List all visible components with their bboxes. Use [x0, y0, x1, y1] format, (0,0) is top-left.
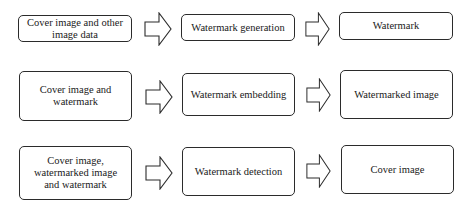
row1-output-box: Watermark	[339, 12, 453, 40]
row3-process-label: Watermark detection	[195, 166, 283, 178]
row3-process-box: Watermark detection	[182, 147, 295, 196]
row1-process-box: Watermark generation	[181, 14, 295, 41]
row2-arrow-right-icon-1	[145, 80, 173, 114]
row3-input-label: Cover image, watermarked image and water…	[26, 155, 126, 191]
row2-output-box: Watermarked image	[340, 70, 453, 119]
row3-output-box: Cover image	[341, 145, 454, 194]
row1-input-label: Cover image and other image data	[23, 17, 127, 41]
row2-input-label: Cover image and watermark	[36, 84, 116, 108]
row1-arrow-right-icon-1	[144, 12, 172, 46]
row1-input-box: Cover image and other image data	[18, 15, 132, 42]
row1-process-label: Watermark generation	[191, 22, 284, 34]
row3-output-label: Cover image	[371, 164, 425, 176]
row2-process-box: Watermark embedding	[182, 73, 295, 116]
row2-output-label: Watermarked image	[354, 89, 439, 101]
row2-process-label: Watermark embedding	[191, 89, 287, 101]
row2-arrow-right-icon-2	[306, 78, 331, 112]
row1-output-label: Watermark	[373, 20, 419, 32]
row3-arrow-right-icon-1	[145, 156, 173, 190]
row3-input-box: Cover image, watermarked image and water…	[19, 146, 132, 200]
row3-arrow-right-icon-2	[306, 154, 331, 188]
row1-arrow-right-icon-2	[305, 12, 330, 46]
row2-input-box: Cover image and watermark	[19, 71, 132, 121]
